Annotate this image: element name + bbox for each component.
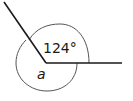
unknown-angle-label: a (37, 67, 46, 81)
known-angle-label: 124° (43, 41, 77, 55)
slanted-ray (4, 2, 46, 63)
angle-diagram: 124° a (0, 0, 133, 101)
